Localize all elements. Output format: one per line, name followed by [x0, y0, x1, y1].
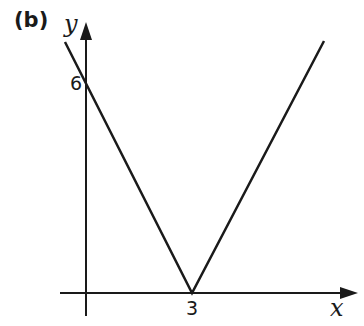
x-intercept-label: 3 — [186, 297, 198, 319]
y-axis-label: y — [64, 10, 78, 38]
part-label: (b) — [14, 8, 48, 32]
y-intercept-label: 6 — [70, 72, 82, 94]
graph-canvas — [0, 0, 364, 326]
graph-line — [65, 41, 324, 293]
y-axis-arrow-icon — [80, 22, 92, 40]
x-axis-label: x — [330, 294, 344, 322]
